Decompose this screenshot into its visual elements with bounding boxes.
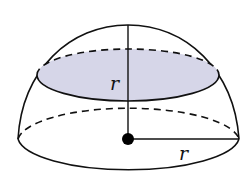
hemisphere-diagram: r r <box>0 0 250 178</box>
radius-label: r <box>179 142 190 164</box>
hemisphere-svg: r r <box>0 0 250 178</box>
center-point <box>122 133 134 145</box>
